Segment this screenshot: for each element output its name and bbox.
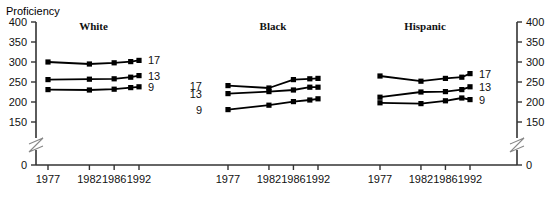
x-tick-label: 1992 bbox=[127, 173, 151, 185]
y-tick-label-right: 250 bbox=[526, 76, 544, 88]
x-tick-label: 1992 bbox=[306, 173, 330, 185]
y-tick-label-right: 350 bbox=[526, 36, 544, 48]
data-point-marker bbox=[45, 77, 50, 82]
y-tick-label-right: 200 bbox=[526, 96, 544, 108]
series-line-17 bbox=[380, 74, 470, 82]
series-label-white-9: 9 bbox=[148, 81, 154, 93]
data-point-marker bbox=[418, 101, 423, 106]
data-point-marker bbox=[377, 73, 382, 78]
data-point-marker bbox=[459, 87, 464, 92]
axis-break-symbol bbox=[510, 138, 524, 152]
data-point-marker bbox=[443, 89, 448, 94]
series-line-9 bbox=[228, 99, 318, 110]
data-point-marker bbox=[377, 95, 382, 100]
panel-title-white: White bbox=[79, 20, 108, 32]
x-tick-label: 1982 bbox=[409, 173, 433, 185]
data-point-marker bbox=[112, 87, 117, 92]
data-point-marker bbox=[45, 59, 50, 64]
data-point-marker bbox=[87, 77, 92, 82]
data-point-marker bbox=[377, 100, 382, 105]
series-line-13 bbox=[48, 76, 139, 80]
data-point-marker bbox=[459, 75, 464, 80]
y-tick-label-left: 400 bbox=[9, 16, 27, 28]
data-point-marker bbox=[291, 99, 296, 104]
axis-break-symbol bbox=[29, 138, 43, 152]
chart-root: ‾ ‾ ‾ ‾ ‾ ‾ ‾ ‾ ‾ ‾ Proficiency 40035030… bbox=[0, 0, 553, 205]
chart-canvas: 40035030025020015004003503002502001500Wh… bbox=[0, 0, 553, 205]
x-tick-label: 1986 bbox=[102, 173, 126, 185]
data-point-marker bbox=[136, 73, 141, 78]
data-point-marker bbox=[307, 76, 312, 81]
x-tick-label: 1977 bbox=[216, 173, 240, 185]
data-point-marker bbox=[128, 75, 133, 80]
series-line-9 bbox=[48, 87, 139, 90]
x-tick-label: 1986 bbox=[433, 173, 457, 185]
series-label-hispanic-9: 9 bbox=[479, 94, 485, 106]
y-tick-label-left: 250 bbox=[9, 76, 27, 88]
series-line-13 bbox=[228, 87, 318, 93]
series-label-hispanic-17: 17 bbox=[479, 68, 491, 80]
data-point-marker bbox=[225, 91, 230, 96]
data-point-marker bbox=[307, 85, 312, 90]
data-point-marker bbox=[136, 58, 141, 63]
data-point-marker bbox=[128, 59, 133, 64]
data-point-marker bbox=[443, 76, 448, 81]
data-point-marker bbox=[315, 96, 320, 101]
y-tick-label-right: 300 bbox=[526, 56, 544, 68]
x-tick-label: 1992 bbox=[458, 173, 482, 185]
data-point-marker bbox=[225, 83, 230, 88]
data-point-marker bbox=[418, 79, 423, 84]
data-point-marker bbox=[291, 87, 296, 92]
series-line-17 bbox=[48, 60, 139, 64]
data-point-marker bbox=[112, 76, 117, 81]
y-tick-label-right: 150 bbox=[526, 116, 544, 128]
data-point-marker bbox=[315, 76, 320, 81]
data-point-marker bbox=[443, 98, 448, 103]
data-point-marker bbox=[225, 107, 230, 112]
panel-title-black: Black bbox=[260, 20, 288, 32]
data-point-marker bbox=[467, 84, 472, 89]
data-point-marker bbox=[87, 61, 92, 66]
y-tick-label-right: 0 bbox=[526, 159, 532, 171]
data-point-marker bbox=[266, 103, 271, 108]
series-label-hispanic-13: 13 bbox=[479, 81, 491, 93]
data-point-marker bbox=[112, 60, 117, 65]
series-label-black-9: 9 bbox=[196, 104, 202, 116]
data-point-marker bbox=[266, 89, 271, 94]
y-tick-label-right: 400 bbox=[526, 16, 544, 28]
data-point-marker bbox=[459, 95, 464, 100]
panel-title-hispanic: Hispanic bbox=[404, 20, 446, 32]
series-line-13 bbox=[380, 87, 470, 97]
y-tick-label-left: 150 bbox=[9, 116, 27, 128]
x-tick-label: 1977 bbox=[368, 173, 392, 185]
data-point-marker bbox=[467, 71, 472, 76]
y-tick-label-left: 300 bbox=[9, 56, 27, 68]
series-line-17 bbox=[228, 78, 318, 88]
series-line-9 bbox=[380, 98, 470, 104]
x-tick-label: 1977 bbox=[36, 173, 60, 185]
x-tick-label: 1986 bbox=[281, 173, 305, 185]
x-tick-label: 1982 bbox=[77, 173, 101, 185]
y-tick-label-left: 200 bbox=[9, 96, 27, 108]
data-point-marker bbox=[291, 77, 296, 82]
data-point-marker bbox=[128, 85, 133, 90]
y-tick-label-left: 0 bbox=[21, 159, 27, 171]
data-point-marker bbox=[307, 97, 312, 102]
series-label-white-17: 17 bbox=[148, 54, 160, 66]
data-point-marker bbox=[315, 85, 320, 90]
data-point-marker bbox=[45, 87, 50, 92]
data-point-marker bbox=[87, 87, 92, 92]
data-point-marker bbox=[418, 89, 423, 94]
data-point-marker bbox=[136, 84, 141, 89]
series-label-black-13: 13 bbox=[190, 88, 202, 100]
series-label-white-13: 13 bbox=[148, 70, 160, 82]
x-tick-label: 1982 bbox=[257, 173, 281, 185]
data-point-marker bbox=[467, 97, 472, 102]
y-tick-label-left: 350 bbox=[9, 36, 27, 48]
